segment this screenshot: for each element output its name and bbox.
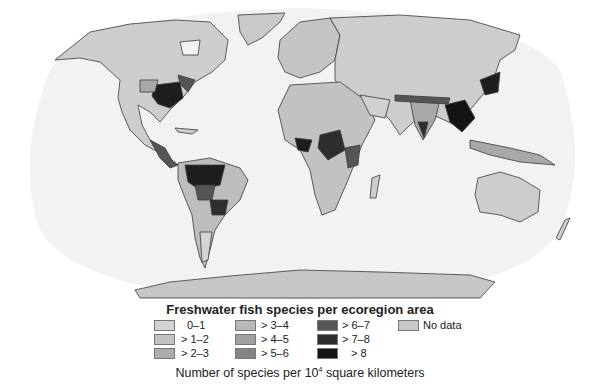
legend-label-4-5: > 4–5	[261, 334, 289, 345]
legend-label-5-6: > 5–6	[261, 348, 289, 359]
legend-swatch-3-4	[235, 320, 256, 331]
legend-label-8: > 8	[351, 348, 367, 359]
legend-label-1-2: > 1–2	[181, 334, 209, 345]
legend-label-7-8: > 7–8	[342, 334, 370, 345]
hudson-bay	[180, 40, 200, 55]
legend-swatch-0-1	[154, 320, 175, 331]
legend-swatch-7-8	[317, 334, 338, 345]
legend-label-2-3: > 2–3	[181, 348, 209, 359]
legend-swatch-1-2	[154, 334, 175, 345]
legend: 0–1 > 1–2 > 2–3 > 3–4 > 4–5 > 5–6 > 6–7 …	[0, 318, 600, 366]
legend-label-6-7: > 6–7	[342, 320, 370, 331]
world-map	[0, 0, 600, 300]
legend-swatch-4-5	[235, 334, 256, 345]
legend-label-no-data: No data	[423, 320, 462, 331]
legend-swatch-2-3	[154, 348, 175, 359]
legend-swatch-5-6	[235, 348, 256, 359]
legend-label-3-4: > 3–4	[261, 320, 289, 331]
na-central	[140, 80, 158, 92]
legend-swatch-no-data	[398, 320, 419, 331]
legend-swatch-8	[317, 348, 338, 359]
parana-high	[210, 200, 228, 215]
legend-title: Freshwater fish species per ecoregion ar…	[0, 302, 600, 317]
amazon-mid	[195, 185, 215, 200]
africa-east-high	[345, 145, 360, 168]
legend-label-0-1: 0–1	[187, 320, 205, 331]
legend-units: Number of species per 104 square kilomet…	[0, 366, 600, 380]
legend-swatch-6-7	[317, 320, 338, 331]
